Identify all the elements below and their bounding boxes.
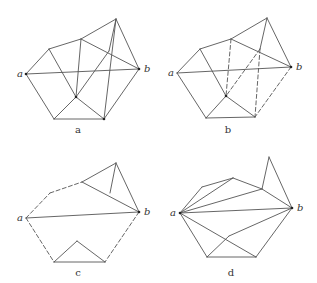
- edge-p3-b: [116, 19, 139, 69]
- dashed-edge-a-p1: [26, 193, 50, 218]
- vertex-dot-b: [138, 68, 141, 71]
- edge-br-bl: [206, 117, 255, 118]
- edge-mid-br: [77, 241, 105, 262]
- edge-p2-p3: [231, 18, 267, 39]
- edge-p4-p5: [76, 51, 109, 97]
- edge-a-p1: [180, 187, 202, 213]
- dashed-edge-b-br: [255, 67, 291, 117]
- edge-p5-bl: [207, 236, 229, 257]
- dashed-edge-a-bl: [26, 218, 54, 262]
- triangulation-figure: abaabbabcabd: [0, 0, 317, 283]
- vertex-label-a: a: [168, 67, 174, 78]
- edge-p2-b: [81, 39, 139, 69]
- edge-p2-p3: [82, 163, 116, 182]
- vertex-dot-b: [290, 66, 293, 69]
- vertex-label-a: a: [17, 68, 23, 79]
- edge-p2-p3: [81, 19, 116, 39]
- edge-a-bl: [180, 213, 207, 257]
- edge-p5-br: [226, 96, 255, 117]
- vertex-label-b: b: [144, 206, 150, 217]
- panel-d: abd: [170, 157, 303, 278]
- dashed-edge-p1-p2: [50, 182, 82, 193]
- edge-p1-p2: [202, 178, 233, 187]
- panel-caption: b: [225, 124, 231, 135]
- edge-bl-a: [177, 73, 206, 118]
- edge-p3-p4: [260, 18, 267, 49]
- edge-a-p2: [180, 178, 233, 213]
- edge-a-br: [180, 213, 256, 257]
- edge-p2-b: [82, 182, 139, 212]
- vertex-label-a: a: [170, 207, 176, 218]
- edge-a-p1: [26, 49, 49, 74]
- vertex-dot-b: [138, 211, 141, 214]
- panel-caption: d: [228, 267, 235, 278]
- vertex-dot-a: [179, 212, 182, 215]
- edge-p5-bl: [54, 97, 76, 119]
- vertex-dot-p5: [225, 95, 228, 98]
- dashed-edge-b-br: [105, 212, 139, 262]
- panel-b: abb: [168, 18, 302, 135]
- edge-a-b: [177, 67, 291, 73]
- vertex-label-b: b: [297, 202, 303, 213]
- panel-c: abc: [17, 163, 150, 278]
- edge-a-b: [26, 69, 139, 74]
- edge-p1-p2: [49, 39, 81, 49]
- vertex-dot-br: [103, 118, 106, 121]
- edge-p2-p5: [76, 39, 81, 97]
- edge-bl-mid: [54, 241, 77, 262]
- vertex-label-b: b: [296, 61, 302, 72]
- edge-p5-br: [76, 97, 104, 119]
- edge-p3-p4: [110, 163, 116, 193]
- edge-a-p4: [180, 189, 262, 213]
- edge-p3-b: [267, 18, 291, 67]
- vertex-dot-b: [291, 207, 294, 210]
- panel-caption: c: [75, 267, 81, 278]
- panel-caption: a: [75, 124, 81, 135]
- edge-a-b: [180, 208, 292, 213]
- edge-p3-b: [116, 163, 139, 212]
- panel-a: aba: [17, 19, 150, 135]
- dashed-edge-p2-p5: [226, 39, 231, 96]
- edge-p4-p3: [262, 157, 269, 189]
- vertex-dot-a: [25, 73, 28, 76]
- edge-bl-a: [26, 74, 54, 119]
- vertex-dot-p5: [75, 96, 78, 99]
- edge-a-b: [26, 212, 139, 218]
- edge-p2-p4: [233, 178, 262, 189]
- edge-p1-p5: [200, 49, 226, 96]
- dashed-edge-p4-br: [255, 49, 260, 117]
- edge-a-p1: [177, 49, 200, 73]
- edge-br-b: [256, 208, 292, 257]
- edge-p1-p2: [200, 39, 231, 49]
- vertex-label-b: b: [144, 63, 150, 74]
- edge-b-p5: [229, 208, 292, 236]
- vertex-label-a: a: [17, 212, 23, 223]
- edge-p5-bl: [206, 96, 226, 118]
- dashed-edge-p4-p5: [226, 49, 260, 96]
